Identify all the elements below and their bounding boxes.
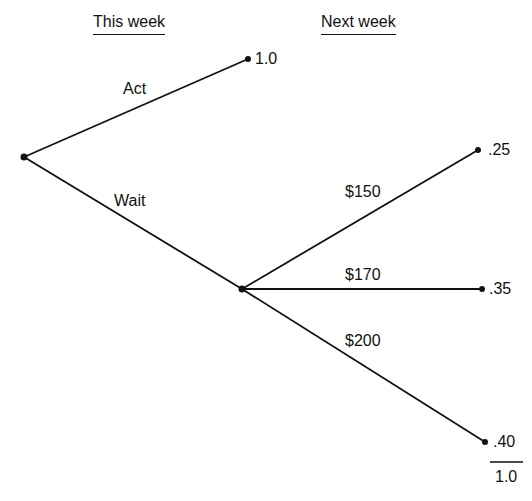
wait-label: Wait	[114, 192, 145, 210]
decision-tree-lines	[0, 0, 532, 501]
act-label: Act	[123, 80, 146, 98]
act-value: 1.0	[255, 50, 277, 68]
act-branch-line	[24, 59, 248, 157]
price-150-probability: .25	[488, 141, 510, 159]
this-week-header: This week	[93, 13, 165, 35]
price-150-end-node	[475, 147, 481, 153]
price-170-probability: .35	[489, 280, 511, 298]
price-200-end-node	[482, 439, 488, 445]
root-decision-node	[21, 154, 28, 161]
price-170-label: $170	[345, 266, 381, 284]
price-200-probability: .40	[493, 433, 515, 451]
price-170-end-node	[479, 286, 485, 292]
wait-branch-line	[24, 157, 242, 289]
price-150-label: $150	[345, 183, 381, 201]
wait-chance-node	[239, 286, 246, 293]
price-200-branch-line	[242, 289, 485, 442]
act-end-node	[245, 56, 251, 62]
next-week-header: Next week	[321, 13, 396, 35]
price-200-label: $200	[345, 332, 381, 350]
probability-total: 1.0	[495, 468, 517, 486]
